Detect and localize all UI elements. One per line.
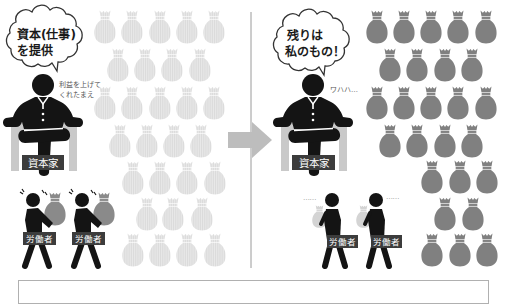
money-bag-icon [122, 234, 143, 267]
money-bag-icon [176, 87, 197, 120]
money-bag-icon [107, 49, 128, 82]
money-bags-before [94, 11, 225, 267]
money-bag-icon [420, 11, 441, 44]
money-bag-icon [420, 87, 441, 120]
money-bag-icon [191, 198, 212, 231]
money-bag-icon [121, 87, 142, 120]
money-bag-icon [447, 87, 468, 120]
speech-line-1: 残りは [287, 28, 323, 43]
capitalist-label: 資本家 [28, 157, 59, 169]
speech-line-2: を提供 [17, 43, 53, 58]
worker-figure-after-1: …… 労働者 [303, 193, 358, 266]
head-icon [325, 193, 339, 207]
money-bag-icon [136, 125, 157, 158]
money-bag-icon [421, 234, 442, 267]
worker-label: 労働者 [75, 234, 102, 244]
worker-figure-before-1: 労働者 [20, 189, 66, 266]
capitalist-figure-before: 資本家 [3, 74, 83, 176]
money-bag-icon [406, 125, 427, 158]
money-bag-icon [366, 87, 387, 120]
speech-bubble-before: 資本(仕事) を提供 [6, 5, 82, 71]
money-bag-icon [176, 11, 197, 44]
worker-figure-after-2: …… 労働者 [356, 193, 402, 266]
money-bag-icon [447, 11, 468, 44]
head-icon [369, 193, 383, 207]
money-bag-icon [203, 11, 224, 44]
money-bag-icon [109, 125, 130, 158]
money-bag-icon [149, 87, 170, 120]
money-bag-icon [190, 125, 211, 158]
money-bag-icon [136, 198, 157, 231]
money-bag-icon [176, 162, 197, 195]
money-bag-icon [149, 162, 170, 195]
money-bag-icon [393, 11, 414, 44]
money-bag-icon [366, 11, 387, 44]
money-bag-icon [421, 161, 442, 194]
money-bag-icon [149, 234, 170, 267]
money-bag-icon [475, 87, 496, 120]
money-bag-icon [379, 49, 400, 82]
remark-line-1: 利益を上げて [59, 80, 101, 89]
worker-label: 労働者 [329, 237, 356, 247]
before-panel: 資本(仕事) を提供 利益を上げて くれたまえ 資本家 [3, 5, 115, 266]
trail-dots: …… [386, 193, 400, 201]
money-bag-icon [475, 11, 496, 44]
speech-line-2: 私のもの！ [284, 44, 345, 59]
worker-label: 労働者 [373, 237, 400, 247]
money-bag-icon [461, 125, 482, 158]
money-bag-icon [94, 11, 115, 44]
remark-line-2: くれたまえ [59, 91, 94, 99]
money-bag-icon [176, 234, 197, 267]
money-bag-icon [461, 49, 482, 82]
speech-line-1: 資本(仕事) [17, 27, 76, 42]
money-bag-icon [189, 49, 210, 82]
money-bag-icon [434, 49, 455, 82]
head-icon [75, 193, 89, 207]
money-bag-icon [94, 87, 115, 120]
money-bag-icon [134, 49, 155, 82]
money-bag-icon [149, 11, 170, 44]
money-bag-icon [204, 234, 225, 267]
money-bag-icon [393, 87, 414, 120]
head-icon [302, 74, 324, 96]
money-bag-icon [203, 87, 224, 120]
money-bag-icon [121, 11, 142, 44]
money-bags-after [366, 11, 497, 267]
money-bag-icon [462, 198, 483, 231]
money-bag-icon [449, 161, 470, 194]
money-bag-icon [161, 49, 182, 82]
money-bag-icon [434, 125, 455, 158]
money-bag-icon [476, 161, 497, 194]
money-bag-icon [122, 162, 143, 195]
money-bag-icon [204, 162, 225, 195]
arrow-right-icon [228, 122, 272, 158]
money-bag-icon [162, 198, 183, 231]
head-icon [26, 193, 40, 207]
caption-box [18, 280, 489, 304]
money-bag-icon [406, 49, 427, 82]
worker-label: 労働者 [26, 234, 53, 244]
money-bag-icon [476, 234, 497, 267]
worker-figure-before-2: 労働者 [69, 189, 115, 266]
money-bag-icon [163, 125, 184, 158]
capitalist-label: 資本家 [299, 157, 330, 169]
trail-dots: …… [303, 194, 317, 202]
speech-bubble-after: 残りは 私のもの！ [273, 9, 349, 75]
head-icon [32, 74, 54, 96]
money-bag-icon [449, 234, 470, 267]
money-bag-icon [434, 198, 455, 231]
money-bag-icon [379, 125, 400, 158]
laugh-remark: ワハハ… [330, 86, 358, 94]
